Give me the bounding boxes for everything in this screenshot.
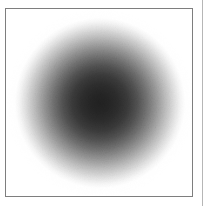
figure-canvas — [6, 9, 192, 196]
radial-blob-gradient — [6, 9, 192, 196]
page-edge-rule — [202, 0, 203, 206]
figure-frame — [5, 8, 193, 197]
page-root — [0, 0, 208, 206]
